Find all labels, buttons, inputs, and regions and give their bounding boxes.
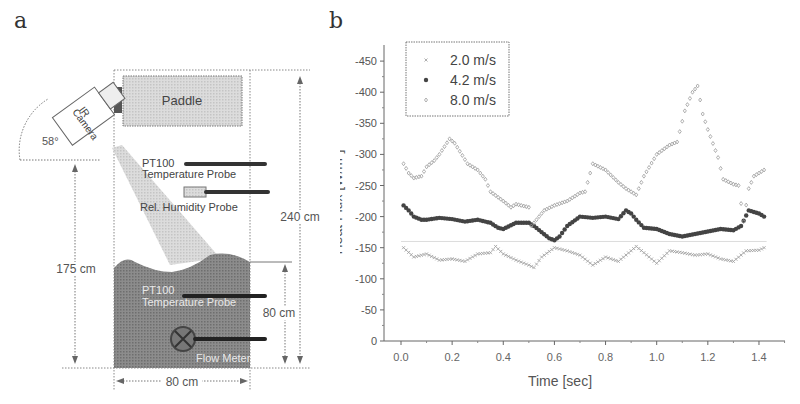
y-tick-label: -100 [355,273,377,285]
legend-entry: 2.0 m/s [450,52,496,68]
x-tick-label: 0.8 [598,351,613,363]
x-tick-label: 0.0 [393,351,408,363]
probe2-label-line1: PT100 [142,284,174,296]
angle-label: 58° [42,135,59,147]
legend-entry: 8.0 m/s [450,92,496,108]
probe2-label-line2: Temperature Probe [142,296,236,308]
x-tick-label: 0.4 [496,351,511,363]
y-tick-label: -200 [355,211,377,223]
paddle-label: Paddle [162,93,202,108]
y-tick-label: 0 [371,335,377,347]
water-depth-label: 80 cm [263,306,296,320]
height-camera-label: 175 cm [56,262,95,276]
angle-arc [19,99,48,160]
heat-flux-chart: -450-400-350-300-250-200-150-100-5000.00… [340,0,800,404]
chart-legend: 2.0 m/s4.2 m/s8.0 m/s [406,42,509,116]
x-tick-label: 1.0 [649,351,664,363]
setup-diagram: Paddle IR Camera 58° PT100 Temperature P… [0,0,340,404]
flowmeter-label: Flow Meter [196,352,251,364]
x-tick-label: 0.6 [547,351,562,363]
series-2-0-m-s [402,245,766,269]
humidity-probe-body [184,187,206,197]
x-tick-label: 1.2 [700,351,715,363]
legend-entry: 4.2 m/s [450,72,496,88]
y-tick-label: -300 [355,148,377,160]
x-tick-label: 0.2 [444,351,459,363]
humidity-label: Rel. Humidity Probe [140,201,238,213]
y-tick-label: -400 [355,86,377,98]
y-tick-label: -350 [355,117,377,129]
series-4-2-m-s [401,203,766,242]
x-axis-label: Time [sec] [528,373,592,389]
y-tick-label: -450 [355,55,377,67]
probe1-label-line2: Temperature Probe [142,168,236,180]
x-tick-label: 1.4 [751,351,766,363]
y-tick-label: -50 [361,304,377,316]
y-tick-label: -250 [355,180,377,192]
tank-width-label: 80 cm [166,375,199,389]
y-tick-label: -150 [355,242,377,254]
y-axis-label: Heat Flux [W/m²] [340,149,345,254]
height-total-label: 240 cm [280,210,319,224]
